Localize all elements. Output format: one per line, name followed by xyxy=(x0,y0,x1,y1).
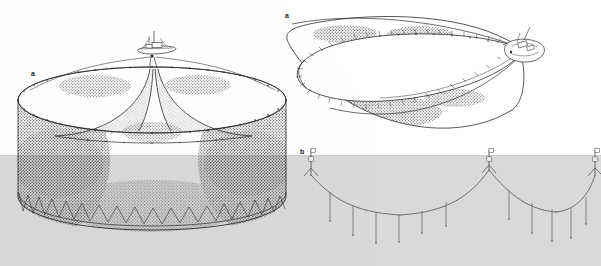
flag-icon xyxy=(489,149,494,153)
flag-icon xyxy=(311,149,316,153)
panel-b-drawing xyxy=(0,0,601,266)
hook-markers xyxy=(329,218,587,244)
panel-label-a-left: a xyxy=(31,70,35,77)
panel-label-b: b xyxy=(300,148,304,155)
mainline-catenary-1 xyxy=(311,170,489,215)
mainline-catenary-2 xyxy=(489,170,595,212)
float-icon xyxy=(593,157,598,162)
figure-canvas: a a b xyxy=(0,0,601,266)
flag-icon xyxy=(595,149,600,153)
surface-buoy-group-1 xyxy=(304,149,318,177)
branch-lines xyxy=(330,190,586,243)
mainline-attachment-dots xyxy=(365,211,556,215)
panel-label-a-right: a xyxy=(285,12,289,19)
surface-buoy-group-3 xyxy=(588,149,601,177)
float-icon xyxy=(487,157,492,162)
buoy-bridle xyxy=(588,168,601,176)
float-icon xyxy=(309,157,314,162)
surface-buoy-group-2 xyxy=(482,149,496,174)
